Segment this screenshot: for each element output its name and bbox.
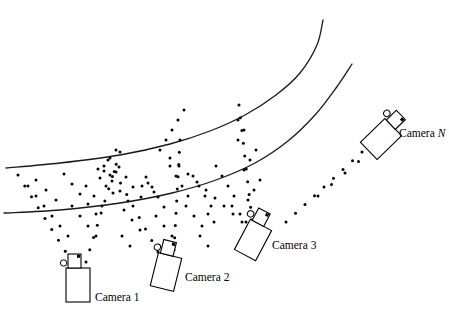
ray-dot	[44, 217, 47, 220]
scatter-dot	[198, 185, 201, 188]
camera-1-label-index: 1	[134, 291, 140, 303]
scatter-dot	[157, 196, 160, 199]
camera-2-label-prefix: Camera	[185, 271, 221, 283]
scatter-dot	[119, 190, 122, 193]
camera-2[interactable]	[145, 238, 185, 292]
ray-dot	[176, 187, 179, 190]
ray-dot	[304, 203, 307, 206]
scatter-dot	[163, 206, 166, 209]
camera-indicator-dot	[77, 255, 80, 258]
scatter-dot	[207, 245, 210, 248]
ray-dot	[175, 212, 178, 215]
scatter-dot	[109, 174, 112, 177]
scatter-dot	[253, 189, 256, 192]
camera-3-ray-right	[238, 104, 254, 222]
ray-dot	[205, 189, 208, 192]
scatter-dot	[67, 235, 70, 238]
ray-dot	[246, 180, 249, 183]
ray-dot	[294, 212, 297, 215]
scatter-dot	[213, 221, 216, 224]
ray-dot	[248, 193, 251, 196]
scatter-dot	[210, 205, 213, 208]
ray-dot	[23, 184, 26, 187]
scatter-dot	[259, 179, 262, 182]
scatter-dot	[79, 193, 82, 196]
road-edges-group	[4, 20, 352, 213]
scatter-dot	[243, 169, 246, 172]
scatter-dot	[201, 225, 204, 228]
scatter-dot	[139, 229, 142, 232]
scatter-dot	[237, 139, 240, 142]
scatter-dot	[45, 189, 48, 192]
ray-dot	[85, 261, 88, 264]
scatter-dot	[105, 185, 108, 188]
camera-3-label: Camera 3	[272, 240, 316, 252]
scatter-dot	[163, 225, 166, 228]
scatter-dot	[35, 179, 38, 182]
camera-2-ray-right	[173, 139, 182, 252]
ray-dot	[232, 213, 235, 216]
ray-dot	[100, 212, 103, 215]
scatter-dot	[123, 209, 126, 212]
scatter-dot	[199, 235, 202, 238]
camera-reel-icon	[153, 243, 161, 251]
ray-dot	[138, 216, 141, 219]
ray-dot	[214, 197, 217, 200]
camera-3[interactable]	[229, 204, 278, 260]
scatter-dot	[140, 196, 143, 199]
scatter-dot	[193, 215, 196, 218]
ray-dot	[317, 195, 320, 198]
camera-1-ray-left	[17, 174, 74, 264]
ray-dot	[132, 205, 135, 208]
scatter-dot	[177, 119, 180, 122]
ray-dot	[241, 221, 244, 224]
scatter-dot	[63, 173, 66, 176]
scatter-dot	[71, 205, 74, 208]
ray-dot	[344, 172, 347, 175]
scatter-dot	[125, 176, 128, 179]
scatter-dot	[85, 185, 88, 188]
scatter-dot	[59, 225, 62, 228]
ray-dot	[351, 159, 354, 162]
scatter-dot	[129, 245, 132, 248]
scatter-dot	[165, 139, 168, 142]
scatter-dot	[221, 175, 224, 178]
scatter-dot	[145, 176, 148, 179]
camera-n-label: Camera N	[399, 128, 445, 140]
ray-dot	[88, 248, 91, 251]
camera-n-ray-left	[285, 151, 364, 224]
ray-dot	[175, 200, 178, 203]
ray-dot	[96, 224, 99, 227]
scatter-dot	[71, 183, 74, 186]
camera-3-label-prefix: Camera	[272, 239, 308, 251]
camera-n-ray-up	[317, 149, 374, 198]
ray-dot	[242, 142, 245, 145]
scatter-dot	[112, 192, 115, 195]
figure-canvas: Camera 1Camera 2Camera 3Camera N	[0, 0, 449, 327]
ray-dot	[174, 224, 177, 227]
scatter-dot	[181, 185, 184, 188]
camera-3-ray-left	[169, 157, 244, 224]
camera-2-label: Camera 2	[185, 272, 229, 284]
scatter-dot	[111, 180, 114, 183]
ray-dot	[103, 199, 106, 202]
ray-dot	[323, 186, 326, 189]
ray-dot	[178, 151, 181, 154]
camera-2-label-index: 2	[224, 271, 230, 283]
scatter-dot	[183, 109, 186, 112]
ray-dot	[249, 206, 252, 209]
camera-1-label: Camera 1	[95, 292, 139, 304]
scatter-dot	[171, 129, 174, 132]
scatter-dot	[131, 219, 134, 222]
scatter-dot	[51, 215, 54, 218]
camera-3-label-index: 3	[311, 239, 317, 251]
scatter-dot	[55, 199, 58, 202]
ray-dot	[169, 157, 172, 160]
scatter-dot	[151, 186, 154, 189]
ray-dot	[115, 163, 118, 166]
scatter-dot	[204, 195, 207, 198]
scatter-dot	[147, 182, 150, 185]
ray-dot	[150, 239, 153, 242]
ray-dot	[107, 187, 110, 190]
sight-line-dots-group	[17, 104, 374, 264]
